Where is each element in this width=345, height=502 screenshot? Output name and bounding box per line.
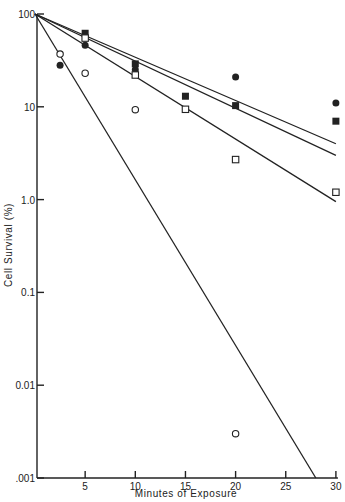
y-tick-label: 0.01 (16, 380, 36, 391)
filled-circle-point (332, 99, 339, 106)
open-square-point (82, 35, 88, 41)
filled-square-point (232, 102, 239, 109)
filled-circle-point (82, 42, 89, 49)
y-tick-label: .001 (16, 473, 36, 484)
survival-chart: 100101.00.10.01.00151015202530 Minutes o… (0, 0, 345, 502)
open-circle-point (57, 51, 63, 57)
filled-circle-point (57, 62, 64, 69)
open-circle-point (232, 431, 238, 437)
x-tick-label: 5 (82, 481, 88, 492)
axis-labels: Minutes of Exposure Cell Survival (%) (3, 203, 237, 499)
y-tick-label: 100 (18, 9, 35, 20)
filled-square-point (182, 93, 189, 100)
fit-line (35, 14, 336, 155)
filled-circle-point (232, 73, 239, 80)
open-circle-point (132, 107, 138, 113)
y-axis-title: Cell Survival (%) (3, 203, 14, 287)
x-tick-label: 30 (330, 481, 342, 492)
open-square-point (232, 156, 238, 162)
y-tick-label: 1.0 (21, 195, 35, 206)
x-axis-title: Minutes of Exposure (135, 488, 238, 499)
fit-line (35, 14, 316, 478)
fit-lines (35, 14, 336, 478)
filled-square-point (332, 118, 339, 125)
y-tick-label: 0.1 (21, 287, 35, 298)
open-square-point (333, 189, 339, 195)
filled-square-point (132, 60, 139, 67)
open-square-point (132, 72, 138, 78)
x-tick-label: 25 (280, 481, 292, 492)
open-square-point (182, 106, 188, 112)
open-circle-point (82, 70, 88, 76)
y-tick-label: 10 (24, 102, 36, 113)
fit-line (35, 14, 336, 144)
